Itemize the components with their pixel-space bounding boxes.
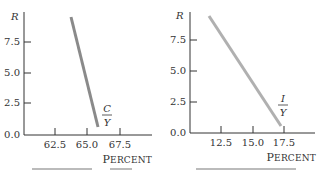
iy-label-numerator: I (280, 93, 286, 104)
cy-label-numerator: C (103, 103, 111, 114)
left-x-label: PERCENT (103, 153, 153, 166)
cy-curve (71, 17, 98, 127)
left-chart: R 7.5 5.0 2.5 0.0 62.5 65.0 67.5 PERCENT… (4, 11, 152, 166)
right-xtick: 17.5 (273, 137, 295, 148)
right-caption-fragment (196, 168, 296, 170)
right-ytick: 0.0 (170, 127, 186, 138)
right-xtick: 12.5 (210, 137, 232, 148)
right-ytick: 7.5 (170, 34, 186, 45)
left-xtick: 65.0 (76, 139, 98, 150)
left-xtick: 62.5 (44, 139, 66, 150)
right-chart: R 7.5 5.0 2.5 0.0 12.5 15.0 17.5 PERCENT… (170, 10, 316, 164)
right-ytick: 5.0 (170, 65, 186, 76)
left-y-label: R (10, 11, 19, 22)
cy-label-denominator: Y (104, 117, 112, 128)
right-ytick: 2.5 (170, 96, 186, 107)
iy-label-denominator: Y (280, 107, 288, 118)
right-xtick: 15.0 (242, 137, 264, 148)
left-ytick: 5.0 (4, 67, 20, 78)
left-ytick: 7.5 (4, 36, 20, 47)
charts-figure: R 7.5 5.0 2.5 0.0 62.5 65.0 67.5 PERCENT… (0, 0, 320, 170)
right-y-label: R (175, 10, 184, 21)
right-x-label: PERCENT (267, 151, 317, 164)
left-caption-fragment (32, 168, 92, 170)
iy-curve (209, 16, 281, 126)
left-xtick: 67.5 (109, 139, 131, 150)
left-caption-fragment (110, 168, 132, 170)
left-ytick: 2.5 (4, 97, 20, 108)
left-ytick: 0.0 (4, 129, 20, 140)
